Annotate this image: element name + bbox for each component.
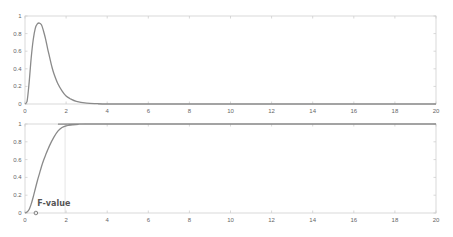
- figure: 0246810121416182000.20.40.60.81 02468101…: [0, 0, 453, 237]
- axes-box: [25, 16, 436, 104]
- y-tick-label: 0: [18, 210, 22, 216]
- x-tick-label: 20: [433, 217, 440, 223]
- x-tick-label: 4: [106, 108, 110, 114]
- x-tick-label: 2: [64, 217, 68, 223]
- x-tick-label: 12: [268, 217, 275, 223]
- y-tick-label: 0.8: [13, 31, 22, 37]
- x-tick-label: 18: [392, 217, 399, 223]
- x-tick-label: 8: [188, 108, 192, 114]
- axes-box: [25, 124, 436, 213]
- y-tick-label: 0.2: [13, 192, 22, 198]
- y-tick-label: 0.8: [13, 139, 22, 145]
- x-tick-label: 10: [227, 108, 234, 114]
- f-value-annotation: F-value: [37, 199, 71, 208]
- x-tick-label: 6: [147, 217, 151, 223]
- x-tick-label: 0: [23, 217, 27, 223]
- y-tick-label: 1: [18, 13, 22, 19]
- y-tick-label: 0: [18, 101, 22, 107]
- y-tick-label: 0.2: [13, 83, 22, 89]
- y-tick-label: 0.4: [13, 66, 22, 72]
- x-tick-label: 4: [106, 217, 110, 223]
- x-tick-label: 2: [64, 108, 68, 114]
- y-tick-label: 0.6: [13, 48, 22, 54]
- pdf-curve: [25, 23, 436, 104]
- x-tick-label: 6: [147, 108, 151, 114]
- y-tick-label: 1: [18, 121, 22, 127]
- x-tick-label: 16: [350, 217, 357, 223]
- x-tick-label: 10: [227, 217, 234, 223]
- cdf-curve: [25, 124, 436, 213]
- x-tick-label: 14: [309, 108, 316, 114]
- x-tick-label: 20: [433, 108, 440, 114]
- y-tick-label: 0.4: [13, 174, 22, 180]
- y-tick-label: 0.6: [13, 157, 22, 163]
- x-tick-label: 12: [268, 108, 275, 114]
- pdf-axes: 0246810121416182000.20.40.60.81: [13, 13, 440, 114]
- x-tick-label: 14: [309, 217, 316, 223]
- x-tick-label: 0: [23, 108, 27, 114]
- x-tick-label: 16: [350, 108, 357, 114]
- x-tick-label: 8: [188, 217, 192, 223]
- x-tick-label: 18: [392, 108, 399, 114]
- cdf-axes: 0246810121416182000.20.40.60.81F-value: [13, 121, 440, 223]
